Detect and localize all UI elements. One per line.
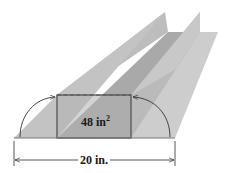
width-label: 20 in. — [80, 153, 108, 167]
area-label: 48 in2 — [81, 114, 110, 129]
gutter-diagram: 48 in2 20 in. — [0, 0, 227, 173]
